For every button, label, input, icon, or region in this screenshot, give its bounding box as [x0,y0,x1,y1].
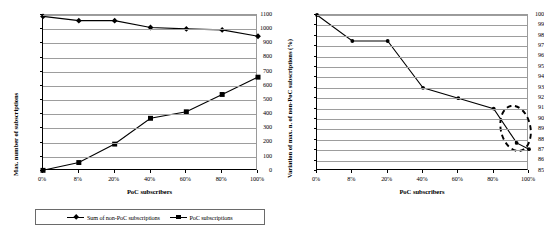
right-chart-x-axis-title: PoC subscribers [316,188,528,195]
x-tick-label: 0% [26,176,58,182]
right-chart-y-axis-title: Variation of max. n. of non-PoC subscrip… [286,39,293,178]
x-tick-mark [78,170,79,173]
gridline [43,114,256,115]
gridline [317,140,527,141]
left-chart-x-axis-title: PoC subscribers [42,188,257,195]
data-point-square [76,160,81,165]
x-tick-label: 60% [169,176,201,182]
data-point-dot [527,147,531,151]
right-chart-series-layer [317,15,529,171]
gridline [317,161,527,162]
data-point-diamond [112,18,118,24]
gridline [317,129,527,130]
x-tick-mark [114,170,115,173]
x-tick-label: 60% [441,176,473,182]
gridline [317,88,527,89]
x-tick-label: 40% [406,176,438,182]
x-tick-mark [457,170,458,173]
gridline [43,157,256,158]
gridline [317,36,527,37]
data-point-square [256,75,261,80]
gridline [317,109,527,110]
data-point-square [148,116,153,121]
x-tick-mark [221,170,222,173]
data-point-diamond [76,18,82,24]
x-tick-label: 8% [335,176,367,182]
gridline [317,67,527,68]
left-chart-y-axis-title: Max. number of subscriptions [12,93,19,176]
x-tick-label: 100% [512,176,544,182]
x-tick-mark [42,170,43,173]
data-point-dot [386,39,390,43]
x-tick-label: 80% [205,176,237,182]
x-tick-label: 20% [371,176,403,182]
square-marker-icon [170,214,187,221]
gridline [317,150,527,151]
left-chart: Max. number of subscriptions 01002003004… [0,0,272,244]
legend-item-poc-subscriptions[interactable]: PoC subscriptions [170,214,233,221]
x-tick-mark [422,170,423,173]
left-chart-series-layer [43,15,258,171]
x-tick-mark [351,170,352,173]
right-chart-plot-area [316,14,528,170]
legend-item-label: Sum of non-PoC subscriptions [87,214,160,221]
data-point-dot [350,39,354,43]
x-tick-mark [316,170,317,173]
data-point-square [220,92,225,97]
gridline [43,143,256,144]
x-tick-mark [387,170,388,173]
gridline [43,100,256,101]
figure-root: Max. number of subscriptions 01002003004… [0,0,544,244]
gridline [43,29,256,30]
x-tick-label: 0% [300,176,332,182]
x-tick-mark [257,170,258,173]
x-tick-mark [150,170,151,173]
diamond-marker-icon [67,214,84,221]
gridline [317,25,527,26]
left-chart-legend: Sum of non-PoC subscriptions PoC subscri… [35,209,265,225]
legend-item-label: PoC subscriptions [189,214,232,221]
gridline [43,58,256,59]
legend-item-sum-of-non-poc-subscriptions[interactable]: Sum of non-PoC subscriptions [67,214,160,221]
gridline [317,15,527,16]
gridline [43,128,256,129]
gridline [43,15,256,16]
gridline [317,57,527,58]
gridline [317,77,527,78]
x-tick-label: 8% [62,176,94,182]
gridline [317,119,527,120]
x-tick-label: 100% [241,176,273,182]
right-chart: Variation of max. n. of non-PoC subscrip… [272,0,544,244]
x-tick-label: 80% [477,176,509,182]
gridline [317,98,527,99]
x-tick-mark [528,170,529,173]
left-chart-plot-area [42,14,257,170]
data-point-dot [515,141,519,145]
gridline [317,46,527,47]
gridline [43,86,256,87]
gridline [43,43,256,44]
x-tick-mark [185,170,186,173]
x-tick-label: 40% [134,176,166,182]
x-tick-label: 20% [98,176,130,182]
x-tick-mark [493,170,494,173]
gridline [43,72,256,73]
